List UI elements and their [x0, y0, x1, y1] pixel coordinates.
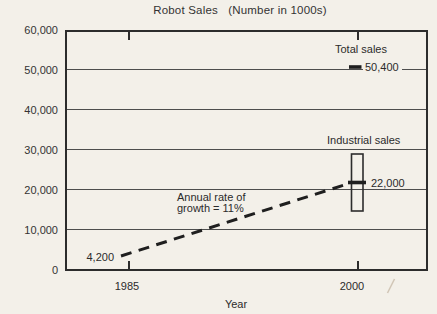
growth-rate-annotation: Annual rate of growth = 11% [177, 192, 246, 214]
industrial-sales-label: Industrial sales [327, 134, 400, 146]
growth-rate-line2: growth = 11% [177, 203, 246, 214]
start-value-label: 4,200 [72, 251, 114, 263]
x-tick-label-2000: 2000 [332, 280, 372, 292]
x-tick-label-1985: 1985 [107, 280, 147, 292]
total-sales-label: Total sales [335, 43, 387, 55]
total-sales-value: 50,400 [363, 61, 402, 73]
scan-artifact-slash [388, 279, 395, 293]
chart-canvas: Robot Sales (Number in 1000s) 60,000 50,… [0, 0, 437, 314]
industrial-sales-value: 22,000 [369, 177, 407, 189]
x-axis-title: Year [206, 298, 266, 310]
